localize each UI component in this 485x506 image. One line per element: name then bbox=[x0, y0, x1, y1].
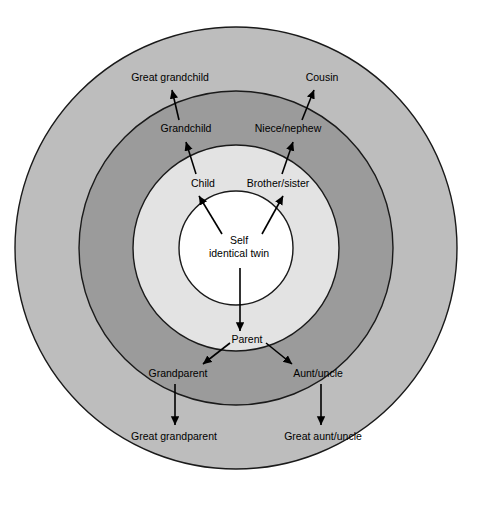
label-grandchild: Grandchild bbox=[161, 122, 212, 134]
label-niece-nephew: Niece/nephew bbox=[255, 122, 322, 134]
label-grandparent: Grandparent bbox=[149, 367, 208, 379]
center-label-identical-twin: identical twin bbox=[209, 247, 269, 259]
label-parent: Parent bbox=[232, 333, 263, 345]
label-great-grandparent: Great grandparent bbox=[131, 430, 217, 442]
label-great-aunt-uncle: Great aunt/uncle bbox=[284, 430, 362, 442]
label-great-grandchild: Great grandchild bbox=[131, 71, 209, 83]
kinship-diagram: ChildBrother/sisterGrandchildNiece/nephe… bbox=[0, 0, 485, 506]
label-brother-sister: Brother/sister bbox=[247, 177, 310, 189]
label-cousin: Cousin bbox=[306, 71, 339, 83]
kinship-rings-svg: ChildBrother/sisterGrandchildNiece/nephe… bbox=[0, 0, 485, 506]
label-child: Child bbox=[191, 177, 215, 189]
center-label-self: Self bbox=[230, 234, 248, 246]
label-aunt-uncle: Aunt/uncle bbox=[293, 367, 343, 379]
